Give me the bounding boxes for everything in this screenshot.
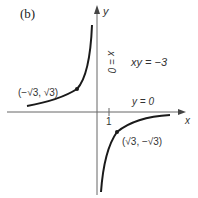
y-axis: y [94, 5, 110, 195]
x-tick-label: 1 [106, 116, 112, 127]
x-axis-label: x [184, 115, 191, 126]
x-axis: x [7, 109, 191, 126]
panel-label: (b) [20, 6, 35, 21]
y-axis-label: y [102, 5, 110, 17]
point-label-lower-right: (√3, −√3) [122, 136, 162, 147]
x-tick-1: 1 [106, 108, 112, 127]
point-sqrt3-neg-sqrt3 [115, 130, 119, 134]
vertical-asymptote-label: x = 0 [106, 50, 117, 73]
point-neg-sqrt3-sqrt3 [75, 87, 79, 91]
point-label-upper-left: (−√3, √3) [18, 87, 58, 98]
hyperbola-diagram: x y 1 (b) x = 0 y = 0 xy = −3 (−√3, √3) … [0, 0, 198, 198]
horizontal-asymptote-label: y = 0 [131, 96, 154, 107]
equation-label: xy = −3 [130, 56, 168, 68]
y-axis-arrow-icon [94, 5, 100, 14]
